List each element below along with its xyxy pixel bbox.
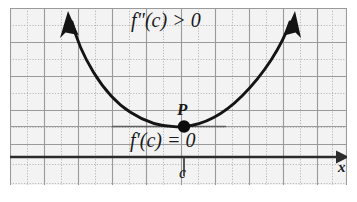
grid-layer: [10, 8, 347, 185]
plot-area: [10, 8, 347, 185]
critical-x-label: c: [179, 165, 186, 181]
grid-major-vertical: [11, 8, 347, 185]
first-derivative-text: f'(c) = 0: [130, 129, 196, 151]
x-axis-label: x: [338, 160, 346, 175]
second-derivative-text: f"(c) > 0: [131, 9, 201, 31]
grid-minor-vertical: [28, 8, 333, 185]
figure-container: f"(c) > 0 P f'(c) = 0 c x: [0, 0, 357, 202]
second-derivative-label: f"(c) > 0: [131, 10, 201, 30]
first-derivative-label: f'(c) = 0: [130, 130, 196, 150]
point-label-p: P: [177, 101, 187, 118]
